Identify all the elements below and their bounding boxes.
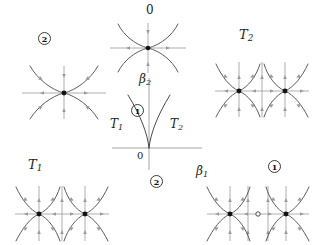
- portrait-bottom-right: [204, 184, 312, 244]
- portrait-top-right-label: T2: [239, 28, 253, 43]
- portrait-top-center-label: 0: [146, 4, 154, 16]
- branch-label-T2: T2: [170, 118, 183, 131]
- equilibrium-filled: [228, 212, 233, 217]
- portrait-top-center: [104, 20, 192, 76]
- equilibrium-filled: [283, 89, 288, 94]
- equilibrium-filled: [83, 212, 88, 217]
- equilibrium-filled: [284, 212, 289, 217]
- portrait-bottom-left: [12, 184, 112, 244]
- beta2-axis-label: β2: [139, 73, 151, 86]
- portrait-left-label-circled: 2: [38, 32, 51, 45]
- region-label-inside-cusp: 1: [131, 104, 144, 117]
- portrait-left: [18, 62, 110, 122]
- equilibrium-filled: [62, 91, 67, 96]
- region-label-outside-cusp: 2: [150, 175, 163, 188]
- beta1-axis-label: β1: [196, 165, 208, 178]
- portrait-top-right: [212, 58, 312, 120]
- branch-label-T1: T1: [110, 118, 123, 131]
- equilibrium-hollow: [256, 212, 260, 216]
- equilibrium-filled: [237, 89, 242, 94]
- portrait-bottom-left-label: T1: [28, 158, 42, 173]
- figure-canvas: 0 2: [0, 0, 316, 245]
- fold-curve-T1: [128, 95, 149, 148]
- portrait-bottom-right-label-circled: 1: [268, 160, 281, 173]
- origin-label: 0: [137, 151, 143, 161]
- equilibrium-filled: [146, 46, 151, 51]
- fold-curve-T2: [149, 95, 170, 148]
- equilibrium-filled: [37, 212, 42, 217]
